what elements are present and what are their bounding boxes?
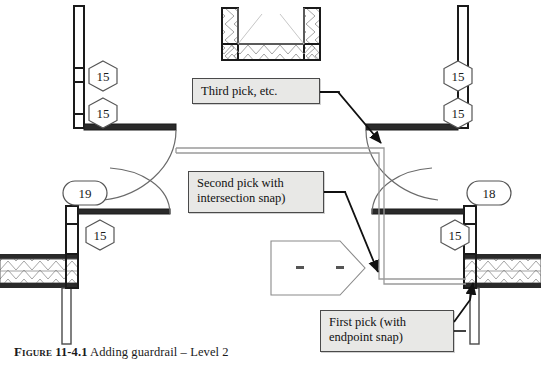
tag-value: 15 [452, 107, 465, 120]
caption-label: Figure [14, 344, 52, 359]
callout-first-pick[interactable]: First pick (with endpoint snap) [320, 310, 454, 352]
section-marker [271, 241, 365, 295]
caption-text: Adding guardrail – Level 2 [90, 345, 229, 359]
callout-second-pick[interactable]: Second pick with intersection snap) [188, 171, 324, 213]
caption-number: 11-4.1 [55, 345, 87, 359]
tag-right-upper-15[interactable]: 15 [443, 60, 473, 92]
tag-left-upper-15[interactable]: 15 [88, 60, 118, 92]
figure-container: Third pick, etc. Second pick with inters… [0, 0, 541, 376]
tag-value: 19 [79, 187, 92, 200]
tag-left-mid-15[interactable]: 15 [85, 219, 115, 251]
tag-value: 15 [94, 229, 107, 242]
tag-value: 15 [449, 229, 462, 242]
tag-left-19[interactable]: 19 [62, 180, 108, 206]
stair-shaft-opening [222, 8, 320, 60]
tag-right-lower-15[interactable]: 15 [443, 97, 473, 129]
left-floor-slab [0, 254, 78, 344]
callout-third-pick[interactable]: Third pick, etc. [192, 78, 320, 104]
tag-right-18[interactable]: 18 [466, 180, 512, 206]
leader-third-pick [320, 92, 381, 143]
tag-right-mid-15[interactable]: 15 [440, 219, 470, 251]
tag-value: 15 [97, 70, 110, 83]
tag-value: 15 [97, 107, 110, 120]
tag-left-lower-15[interactable]: 15 [88, 97, 118, 129]
tag-value: 18 [483, 187, 496, 200]
tag-value: 15 [452, 70, 465, 83]
figure-caption: Figure 11-4.1 Adding guardrail – Level 2 [14, 344, 229, 360]
right-floor-slab [464, 254, 541, 344]
